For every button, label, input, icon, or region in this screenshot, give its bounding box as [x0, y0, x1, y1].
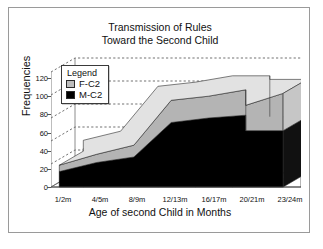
y-axis-label: Frequencies	[20, 36, 32, 136]
y-tickmark-0	[47, 187, 51, 188]
y-tickmark-40	[47, 151, 51, 152]
x-axis-label: Age of second Child in Months	[9, 206, 311, 218]
y-tick-40: 40	[26, 146, 48, 155]
figure-canvas: Transmission of Rules Toward the Second …	[0, 0, 323, 249]
chart-frame: Transmission of Rules Toward the Second …	[8, 7, 310, 233]
chart-title-line-1: Transmission of Rules	[9, 21, 311, 34]
legend-label-m-c2: M-C2	[79, 90, 102, 100]
y-tick-20: 20	[26, 165, 48, 174]
y-tick-60: 60	[26, 128, 48, 137]
legend-swatch-f-c2	[66, 80, 75, 88]
y-tickmark-20	[47, 169, 51, 170]
chart-title-line-2: Toward the Second Child	[9, 34, 311, 47]
chart-title: Transmission of Rules Toward the Second …	[9, 21, 311, 47]
plot-area: 0 20 40 60 80 100 120 1/2m 4/5m 8/9m 12/…	[51, 56, 301, 191]
legend: Legend F-C2 M-C2	[61, 65, 109, 104]
x-tick-16-17m: 16/17m	[201, 195, 226, 204]
x-tick-20-21m: 20/21m	[239, 195, 264, 204]
x-tick-8-9m: 8/9m	[129, 195, 146, 204]
x-tick-4-5m: 4/5m	[92, 195, 109, 204]
y-tick-80: 80	[26, 110, 48, 119]
y-tick-100: 100	[26, 92, 48, 101]
legend-label-f-c2: F-C2	[79, 79, 100, 89]
y-tickmark-100	[47, 96, 51, 97]
y-tick-0: 0	[26, 183, 48, 192]
legend-item-m-c2[interactable]: M-C2	[66, 90, 102, 100]
legend-item-f-c2[interactable]: F-C2	[66, 79, 102, 89]
y-tickmark-80	[47, 114, 51, 115]
x-tick-12-13m: 12/13m	[162, 195, 187, 204]
x-tick-1-2m: 1/2m	[55, 195, 72, 204]
y-tickmark-120	[47, 78, 51, 79]
legend-title: Legend	[67, 68, 102, 78]
legend-swatch-m-c2	[66, 91, 75, 99]
x-tick-23-24m: 23/24m	[277, 195, 302, 204]
y-tickmark-60	[47, 133, 51, 134]
y-tick-120: 120	[26, 73, 48, 82]
